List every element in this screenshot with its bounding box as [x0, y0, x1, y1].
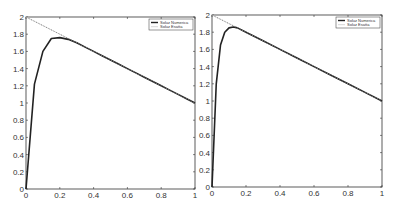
- y-tick-label: 0.8: [199, 114, 211, 123]
- x-tick-label: 0.6: [308, 189, 320, 198]
- x-tick-label: 1: [193, 191, 198, 200]
- y-tick-label: 0.4: [199, 149, 211, 158]
- y-tick-label: 0.6: [199, 131, 211, 140]
- x-tick-label: 0: [24, 191, 29, 200]
- x-tick-label: 0.2: [240, 189, 252, 198]
- series-numeric-line: [212, 27, 382, 187]
- x-tick-label: 0.4: [88, 191, 100, 200]
- y-tick-label: 1.6: [199, 45, 211, 54]
- x-tick-label: 0.2: [54, 191, 66, 200]
- chart-panel-2: 00.20.40.60.8100.20.40.60.811.21.41.61.8…: [199, 11, 385, 198]
- x-tick-label: 0.8: [156, 191, 168, 200]
- y-tick-label: 1.4: [13, 65, 25, 74]
- y-tick-label: 1.8: [199, 28, 211, 37]
- y-tick-label: 1: [206, 97, 211, 106]
- y-tick-label: 0.4: [13, 151, 25, 160]
- x-tick-label: 0.4: [274, 189, 286, 198]
- axes-box: [212, 15, 382, 187]
- x-tick-label: 0: [210, 189, 215, 198]
- y-tick-label: 1.8: [13, 30, 25, 39]
- x-tick-label: 0.6: [122, 191, 134, 200]
- y-tick-label: 0.8: [13, 116, 25, 125]
- y-tick-label: 0: [206, 183, 211, 192]
- legend: Soluz NumericaSoluz Esatta: [149, 19, 193, 30]
- y-tick-label: 1: [20, 99, 25, 108]
- y-tick-label: 0.6: [13, 133, 25, 142]
- legend-label: Soluz Esatta: [160, 24, 183, 29]
- y-tick-label: 2: [206, 11, 211, 20]
- y-tick-label: 1.4: [199, 63, 211, 72]
- y-tick-label: 1.2: [199, 80, 211, 89]
- y-tick-label: 0.2: [13, 168, 25, 177]
- x-tick-label: 1: [380, 189, 385, 198]
- y-tick-label: 0.2: [199, 166, 211, 175]
- legend: Soluz NumericaSoluz Esatta: [336, 17, 380, 28]
- y-tick-label: 1.2: [13, 82, 25, 91]
- y-tick-label: 2: [20, 13, 25, 22]
- legend-label: Soluz Esatta: [347, 22, 370, 27]
- axes-box: [26, 17, 195, 189]
- chart-panel-1: 00.20.40.60.8100.20.40.60.811.21.41.61.8…: [13, 13, 198, 200]
- series-numeric-line: [26, 38, 195, 189]
- y-tick-label: 1.6: [13, 47, 25, 56]
- figure: 00.20.40.60.8100.20.40.60.811.21.41.61.8…: [0, 0, 397, 209]
- y-tick-label: 0: [20, 185, 25, 194]
- x-tick-label: 0.8: [342, 189, 354, 198]
